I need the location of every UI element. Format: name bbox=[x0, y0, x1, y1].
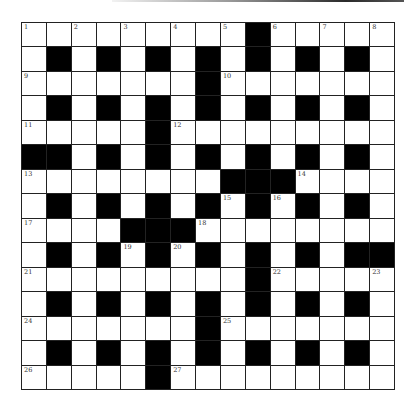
grid-cell[interactable] bbox=[370, 121, 394, 144]
grid-cell[interactable] bbox=[296, 23, 320, 46]
grid-cell[interactable] bbox=[22, 243, 46, 266]
grid-cell[interactable] bbox=[171, 96, 195, 119]
grid-cell[interactable] bbox=[171, 268, 195, 291]
grid-cell[interactable] bbox=[370, 170, 394, 193]
grid-cell[interactable] bbox=[221, 145, 245, 168]
grid-cell[interactable] bbox=[345, 219, 369, 242]
grid-cell[interactable] bbox=[370, 317, 394, 340]
grid-cell[interactable] bbox=[271, 366, 295, 389]
grid-cell[interactable] bbox=[370, 145, 394, 168]
grid-cell[interactable]: 26 bbox=[22, 366, 46, 389]
grid-cell[interactable] bbox=[121, 72, 145, 95]
grid-cell[interactable] bbox=[171, 145, 195, 168]
grid-cell[interactable] bbox=[146, 170, 170, 193]
grid-cell[interactable] bbox=[271, 243, 295, 266]
grid-cell[interactable] bbox=[47, 72, 71, 95]
grid-cell[interactable]: 19 bbox=[121, 243, 145, 266]
grid-cell[interactable]: 24 bbox=[22, 317, 46, 340]
grid-cell[interactable]: 6 bbox=[271, 23, 295, 46]
grid-cell[interactable] bbox=[72, 292, 96, 315]
grid-cell[interactable] bbox=[320, 145, 344, 168]
grid-cell[interactable] bbox=[271, 219, 295, 242]
grid-cell[interactable] bbox=[22, 96, 46, 119]
grid-cell[interactable]: 2 bbox=[72, 23, 96, 46]
grid-cell[interactable] bbox=[171, 194, 195, 217]
grid-cell[interactable] bbox=[72, 317, 96, 340]
grid-cell[interactable] bbox=[97, 366, 121, 389]
grid-cell[interactable] bbox=[72, 268, 96, 291]
grid-cell[interactable]: 20 bbox=[171, 243, 195, 266]
grid-cell[interactable] bbox=[370, 47, 394, 70]
grid-cell[interactable] bbox=[296, 366, 320, 389]
grid-cell[interactable] bbox=[22, 341, 46, 364]
grid-cell[interactable]: 25 bbox=[221, 317, 245, 340]
grid-cell[interactable] bbox=[221, 243, 245, 266]
grid-cell[interactable] bbox=[121, 194, 145, 217]
grid-cell[interactable]: 7 bbox=[320, 23, 344, 46]
grid-cell[interactable] bbox=[97, 72, 121, 95]
grid-cell[interactable] bbox=[345, 366, 369, 389]
grid-cell[interactable] bbox=[196, 268, 220, 291]
grid-cell[interactable]: 4 bbox=[171, 23, 195, 46]
grid-cell[interactable] bbox=[146, 72, 170, 95]
grid-cell[interactable] bbox=[370, 72, 394, 95]
grid-cell[interactable]: 10 bbox=[221, 72, 245, 95]
grid-cell[interactable] bbox=[171, 341, 195, 364]
grid-cell[interactable] bbox=[121, 268, 145, 291]
grid-cell[interactable] bbox=[171, 317, 195, 340]
grid-cell[interactable] bbox=[345, 317, 369, 340]
grid-cell[interactable] bbox=[121, 145, 145, 168]
grid-cell[interactable] bbox=[296, 121, 320, 144]
grid-cell[interactable] bbox=[246, 121, 270, 144]
grid-cell[interactable] bbox=[246, 317, 270, 340]
grid-cell[interactable] bbox=[320, 121, 344, 144]
grid-cell[interactable] bbox=[221, 47, 245, 70]
grid-cell[interactable] bbox=[271, 121, 295, 144]
grid-cell[interactable] bbox=[370, 96, 394, 119]
grid-cell[interactable] bbox=[320, 341, 344, 364]
grid-cell[interactable] bbox=[271, 145, 295, 168]
grid-cell[interactable]: 1 bbox=[22, 23, 46, 46]
grid-cell[interactable] bbox=[345, 121, 369, 144]
grid-cell[interactable] bbox=[72, 121, 96, 144]
grid-cell[interactable] bbox=[171, 72, 195, 95]
grid-cell[interactable]: 14 bbox=[296, 170, 320, 193]
grid-cell[interactable]: 12 bbox=[171, 121, 195, 144]
grid-cell[interactable] bbox=[171, 292, 195, 315]
grid-cell[interactable] bbox=[320, 243, 344, 266]
grid-cell[interactable] bbox=[370, 341, 394, 364]
grid-cell[interactable] bbox=[72, 194, 96, 217]
grid-cell[interactable] bbox=[320, 292, 344, 315]
grid-cell[interactable] bbox=[246, 219, 270, 242]
grid-cell[interactable] bbox=[97, 317, 121, 340]
grid-cell[interactable]: 11 bbox=[22, 121, 46, 144]
grid-cell[interactable] bbox=[296, 72, 320, 95]
grid-cell[interactable] bbox=[320, 268, 344, 291]
grid-cell[interactable] bbox=[221, 292, 245, 315]
grid-cell[interactable]: 27 bbox=[171, 366, 195, 389]
grid-cell[interactable] bbox=[47, 170, 71, 193]
grid-cell[interactable] bbox=[97, 170, 121, 193]
grid-cell[interactable] bbox=[196, 366, 220, 389]
grid-cell[interactable] bbox=[72, 96, 96, 119]
grid-cell[interactable] bbox=[320, 366, 344, 389]
grid-cell[interactable] bbox=[271, 317, 295, 340]
grid-cell[interactable] bbox=[320, 194, 344, 217]
grid-cell[interactable] bbox=[345, 23, 369, 46]
grid-cell[interactable] bbox=[72, 219, 96, 242]
grid-cell[interactable] bbox=[345, 170, 369, 193]
grid-cell[interactable] bbox=[121, 96, 145, 119]
grid-cell[interactable] bbox=[146, 268, 170, 291]
grid-cell[interactable] bbox=[320, 219, 344, 242]
grid-cell[interactable]: 16 bbox=[271, 194, 295, 217]
grid-cell[interactable]: 9 bbox=[22, 72, 46, 95]
grid-cell[interactable] bbox=[121, 170, 145, 193]
grid-cell[interactable]: 13 bbox=[22, 170, 46, 193]
grid-cell[interactable] bbox=[271, 96, 295, 119]
grid-cell[interactable] bbox=[121, 121, 145, 144]
grid-cell[interactable] bbox=[320, 96, 344, 119]
grid-cell[interactable] bbox=[271, 292, 295, 315]
grid-cell[interactable] bbox=[97, 219, 121, 242]
grid-cell[interactable] bbox=[121, 47, 145, 70]
grid-cell[interactable] bbox=[22, 292, 46, 315]
